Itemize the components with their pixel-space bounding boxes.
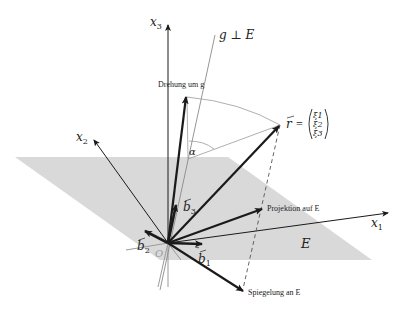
basis-b1	[168, 243, 202, 244]
label-alpha: α	[189, 146, 196, 157]
label-x2: x2	[76, 130, 88, 146]
annotation-reflection: Spiegelung an E	[248, 288, 301, 297]
vector-geometry-diagram: x3 x2 x1 g ⊥ E E O b1 ⃗ b2 b3 r = ξ1 ξ2 …	[0, 0, 399, 311]
label-vector-r: r = ξ1 ξ2 ξ3	[286, 109, 328, 139]
svg-text:ξ3: ξ3	[313, 129, 323, 138]
svg-text:r: r	[286, 117, 293, 131]
angle-leg-2	[187, 97, 188, 159]
angle-leg-1	[188, 125, 280, 159]
label-plane-e: E	[300, 236, 311, 251]
label-x3: x3	[150, 15, 162, 31]
annotation-rotation: Drehung um g	[158, 80, 204, 89]
label-origin: O	[155, 248, 163, 259]
annotation-projection: Projektion auf E	[267, 204, 320, 213]
label-x1: x1	[371, 216, 383, 232]
label-g-perp-e: g ⊥ E	[219, 28, 255, 42]
svg-text:ξ2: ξ2	[313, 120, 323, 129]
svg-text:=: =	[296, 117, 303, 131]
svg-text:ξ1: ξ1	[313, 111, 323, 120]
